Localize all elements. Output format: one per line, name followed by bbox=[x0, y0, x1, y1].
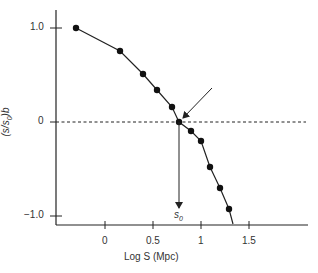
y-axis-title-main: (s/s bbox=[0, 120, 11, 136]
chart-canvas bbox=[0, 0, 318, 273]
y-axis-title: (s/s0)b bbox=[0, 108, 13, 137]
x-tick-label-0: 0 bbox=[102, 235, 108, 246]
data-points bbox=[73, 25, 232, 212]
x-tick-label-1.5: 1.5 bbox=[242, 235, 256, 246]
y-axis-title-tail: )b bbox=[0, 108, 11, 117]
s0-annotation: s0 bbox=[174, 209, 183, 222]
data-series-line bbox=[76, 28, 233, 224]
y-tick-label-0: 0 bbox=[38, 115, 44, 126]
s0-sub: 0 bbox=[179, 215, 183, 222]
y-tick-label-neg1: −1.0 bbox=[24, 209, 44, 220]
x-axis-title: Log S (Mpc) bbox=[124, 251, 178, 262]
y-tick-label-1: 1.0 bbox=[30, 21, 44, 32]
x-tick-label-0.5: 0.5 bbox=[146, 235, 160, 246]
x-tick-label-1: 1 bbox=[198, 235, 204, 246]
crossing-pointer-arrow bbox=[183, 88, 212, 118]
y-axis-title-sub: 0 bbox=[6, 116, 13, 120]
